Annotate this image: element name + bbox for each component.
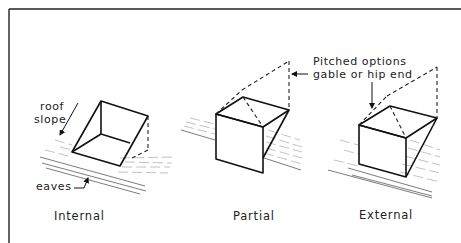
caption-external: External (359, 208, 413, 222)
pitched-options-label-line2: gable or hip end (313, 68, 413, 81)
roof-slope-label-line2: slope (34, 113, 66, 126)
eaves-leader (74, 178, 88, 188)
internal-dormer-shape (72, 101, 148, 166)
caption-partial: Partial (233, 209, 275, 223)
dormer-types-diagram: roof slope eaves Internal Partial (0, 0, 461, 243)
roof-hatching (181, 118, 302, 170)
external-dormer-figure (328, 67, 440, 198)
roof-slope-label-line1: roof (40, 100, 65, 113)
pitched-options-label-line1: Pitched options (313, 55, 407, 68)
eaves-label: eaves (36, 180, 72, 193)
roof-hatching (328, 140, 440, 198)
caption-internal: Internal (54, 209, 105, 223)
external-dormer-shape (359, 67, 437, 177)
partial-dormer-figure (181, 61, 308, 173)
partial-dormer-shape (216, 61, 289, 173)
